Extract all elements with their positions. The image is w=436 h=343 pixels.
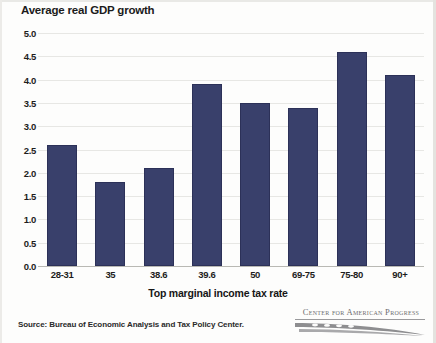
y-axis-tick-label: 5.0 [8,28,36,39]
x-axis-tick-label: 75-80 [328,269,376,280]
bar [385,75,415,266]
bar [337,52,367,266]
source-note: Source: Bureau of Economic Analysis and … [18,320,244,329]
bar [95,182,125,266]
bar-slot [376,33,424,266]
y-axis-tick-label: 1.5 [8,191,36,202]
bar [192,84,222,266]
x-axis-tick-label: 38.6 [135,269,183,280]
x-axis-tick-label: 39.6 [183,269,231,280]
bar-slot [279,33,327,266]
bar-slot [38,33,86,266]
y-axis-labels: 5.04.54.03.53.02.52.01.51.00.50.0 [8,33,36,266]
y-axis-tick-label: 3.0 [8,121,36,132]
y-axis-tick-label: 0.5 [8,237,36,248]
bar-slot [328,33,376,266]
x-axis-tick-label: 50 [231,269,279,280]
y-axis-tick-label: 2.0 [8,167,36,178]
cap-logo: Center for American Progress [291,307,427,337]
y-axis-tick-label: 1.0 [8,214,36,225]
chart-figure: Average real GDP growth 5.04.54.03.53.02… [0,0,436,343]
bar-series [38,33,424,266]
x-axis-tick-label: 90+ [376,269,424,280]
y-axis-tick-label: 3.5 [8,97,36,108]
bar-slot [135,33,183,266]
x-axis-tick-label: 28-31 [38,269,86,280]
x-axis-title: Top marginal income tax rate [0,287,436,299]
cap-logo-swoosh-icon [293,320,427,337]
bar-slot [231,33,279,266]
x-axis-tick-label: 69-75 [279,269,327,280]
cap-logo-text: Center for American Progress [295,307,427,317]
chart-title: Average real GDP growth [21,4,154,16]
bar-slot [86,33,134,266]
y-axis-tick-label: 2.5 [8,144,36,155]
bar-slot [183,33,231,266]
y-axis-tick-label: 4.5 [8,51,36,62]
bar [144,168,174,266]
bar [47,145,77,266]
plot-area [38,33,424,266]
bar [288,108,318,266]
gridline [38,266,424,267]
x-axis-labels: 28-313538.639.65069-7575-8090+ [38,269,424,285]
scan-edge-top [0,0,436,2]
x-axis-tick-label: 35 [86,269,134,280]
y-axis-tick-label: 4.0 [8,74,36,85]
y-axis-tick-label: 0.0 [8,261,36,272]
bar [240,103,270,266]
